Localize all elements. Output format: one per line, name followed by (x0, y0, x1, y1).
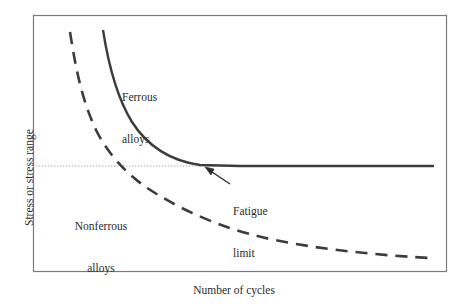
fatigue-sn-curve-figure: Stress or stress range Number of cycles … (0, 0, 468, 306)
fatigue-limit-arrow (205, 167, 230, 184)
ferrous-alloys-annotation-line2: alloys (122, 132, 157, 146)
fatigue-limit-annotation: Fatigue limit (233, 176, 268, 288)
nonferrous-alloys-annotation-line2: alloys (57, 261, 145, 275)
nonferrous-alloys-annotation-line1: Nonferrous (57, 219, 145, 233)
ferrous-alloys-annotation: Ferrous alloys (122, 62, 157, 174)
nonferrous-alloys-annotation: Nonferrous alloys (57, 191, 145, 303)
ferrous-alloys-annotation-line1: Ferrous (122, 90, 157, 104)
fatigue-limit-annotation-line2: limit (233, 246, 268, 260)
fatigue-limit-annotation-line1: Fatigue (233, 204, 268, 218)
y-axis-label: Stress or stress range (22, 129, 36, 226)
